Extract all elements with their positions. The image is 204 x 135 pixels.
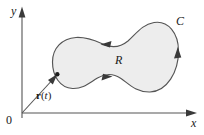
origin-label: 0	[6, 114, 12, 126]
curve-point-marker	[55, 72, 59, 76]
vector-label: r(t)	[36, 90, 51, 101]
diagram-svg	[0, 0, 204, 135]
arrow-up-icon	[19, 7, 26, 18]
region-label: R	[115, 54, 122, 66]
curve-label: C	[176, 15, 184, 27]
figure-canvas: y x 0 R C r(t)	[0, 0, 204, 135]
vector-label-paren-close: )	[48, 89, 52, 101]
y-axis-label: y	[11, 5, 16, 17]
x-axis-label: x	[191, 117, 196, 129]
